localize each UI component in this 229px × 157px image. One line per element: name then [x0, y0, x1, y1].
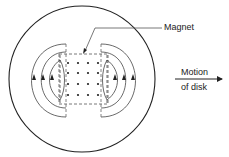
magnetic-field-dots	[67, 62, 99, 96]
left-eddy-current-loops	[32, 44, 67, 117]
motion-label-line2: of disk	[181, 83, 207, 92]
left-loop-arrows	[32, 74, 54, 80]
magnet-label: Magnet	[164, 23, 194, 32]
right-loop-arrows	[113, 74, 135, 80]
right-eddy-current-loops	[101, 44, 136, 117]
motion-label-line1: Motion	[181, 68, 208, 77]
leader-arrowhead-icon	[83, 48, 87, 54]
magnet-leader-line	[85, 28, 162, 51]
eddy-current-diagram	[0, 0, 229, 157]
